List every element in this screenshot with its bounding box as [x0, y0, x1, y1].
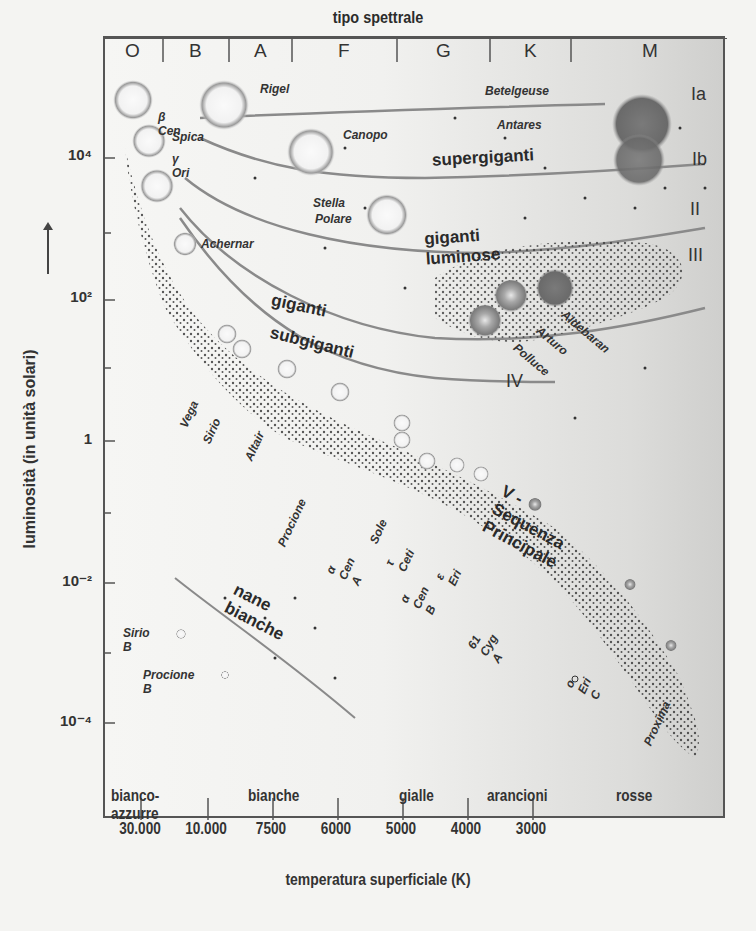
label-antares: Antares	[497, 118, 542, 132]
y-tick-1: 1	[84, 430, 92, 447]
class-ia: Ia	[691, 84, 706, 105]
color-bianche: bianche	[248, 787, 299, 805]
y-axis-label: luminosità (in unità solari)	[21, 299, 39, 599]
label-achernar: Achernar	[201, 237, 254, 251]
class-iv: IV	[506, 371, 523, 392]
y-tick-10e-2: 10⁻²	[62, 572, 92, 590]
x-tick-7500: 7500	[256, 820, 286, 838]
x-axis-ticks	[141, 798, 533, 820]
star-beta-cen	[113, 80, 153, 120]
label-canopo: Canopo	[343, 128, 388, 142]
y-tick-10e4: 10⁴	[68, 146, 92, 163]
spectral-g: G	[436, 40, 451, 62]
label-sirio-b: Sirio B	[123, 626, 150, 654]
class-ib: Ib	[692, 149, 707, 170]
y-axis-ticks	[105, 158, 115, 723]
star-arturo	[494, 280, 528, 314]
x-tick-30000: 30.000	[119, 820, 161, 838]
curve-ia	[200, 104, 605, 118]
label-procione-b: Procione B	[143, 668, 194, 696]
star-gamma-ori	[140, 169, 174, 203]
label-rigel: Rigel	[260, 82, 289, 96]
color-arancioni: arancioni	[487, 787, 547, 805]
star-procione-b	[221, 671, 229, 679]
color-rosse: rosse	[616, 787, 652, 805]
star-stella-polare	[366, 194, 408, 236]
plot-graphics	[105, 38, 727, 820]
star-rigel	[199, 80, 249, 130]
spectral-letters: O B A F G K M	[105, 38, 727, 64]
star-aldebaran	[536, 269, 574, 307]
label-stella: Stella	[313, 196, 345, 210]
label-gamma-ori: γ Ori	[172, 152, 189, 180]
star-polluce	[468, 305, 502, 339]
label-spica: Spica	[172, 130, 204, 144]
star-canopo	[287, 128, 335, 176]
class-ii: II	[690, 199, 700, 220]
label-giganti-luminose: giganti luminose	[424, 224, 501, 269]
x-tick-5000: 5000	[386, 820, 416, 838]
x-tick-4000: 4000	[451, 820, 481, 838]
y-tick-10e2: 10²	[70, 288, 92, 305]
x-tick-6000: 6000	[321, 820, 351, 838]
star-antares	[613, 134, 665, 186]
color-bianco-azzurre: bianco-azzurre	[111, 787, 159, 823]
up-arrow-icon	[47, 228, 49, 274]
spectral-a: A	[254, 40, 267, 62]
scattered-stars	[224, 117, 707, 680]
class-iii: III	[688, 245, 703, 266]
chart-title: tipo spettrale	[57, 8, 700, 28]
x-axis-label: temperatura superficiale (K)	[68, 870, 688, 890]
spectral-k: K	[524, 40, 537, 62]
label-betelgeuse: Betelgeuse	[485, 84, 549, 98]
hr-diagram-plot: O B A F G K M Ia Ib II III IV supergigan…	[103, 36, 725, 818]
label-polare: Polare	[315, 212, 352, 226]
color-gialle: gialle	[399, 787, 434, 805]
spectral-b: B	[189, 40, 202, 62]
x-tick-10000: 10.000	[185, 820, 227, 838]
spectral-m: M	[642, 40, 658, 62]
spectral-f: F	[338, 40, 350, 62]
y-tick-10e-4: 10⁻⁴	[60, 712, 92, 730]
star-sirio-b	[176, 629, 186, 639]
star-achernar	[173, 232, 197, 256]
spectral-o: O	[125, 40, 140, 62]
x-tick-3000: 3000	[516, 820, 546, 838]
